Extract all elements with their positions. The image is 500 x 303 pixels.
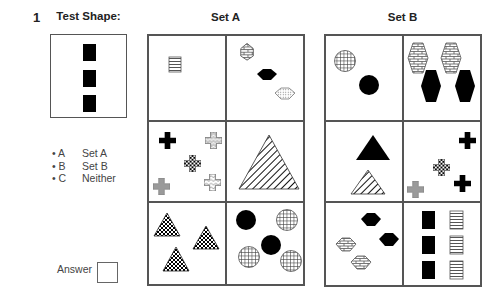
- set-a-heading: Set A: [147, 11, 304, 23]
- set-b-cell-top-right: [403, 35, 481, 121]
- set-a-grid: [147, 34, 305, 286]
- set-a-cell-middle-right: [226, 121, 304, 202]
- option-a[interactable]: • ASet A: [52, 147, 116, 160]
- set-a-cell-bottom-left: [148, 202, 226, 285]
- test-shape-box: [50, 34, 127, 118]
- set-a-cell-top-left: [148, 35, 226, 121]
- set-b-cell-bottom-right: [403, 202, 481, 286]
- set-b-heading: Set B: [324, 11, 481, 23]
- test-shape-figure: [51, 35, 128, 119]
- set-a-cell-bottom-right: [226, 202, 304, 285]
- option-b[interactable]: • BSet B: [52, 160, 116, 173]
- set-b-cell-middle-left: [325, 121, 403, 202]
- question-number: 1: [33, 10, 40, 25]
- test-shape-heading: Test Shape:: [50, 10, 127, 22]
- answer-input-box[interactable]: [97, 262, 118, 283]
- set-a-cell-top-right: [226, 35, 304, 121]
- set-b-cell-middle-right: [403, 121, 481, 202]
- answer-label: Answer: [57, 263, 92, 275]
- set-a-cell-middle-left: [148, 121, 226, 202]
- set-b-cell-bottom-left: [325, 202, 403, 286]
- option-c[interactable]: • CNeither: [52, 172, 116, 185]
- set-b-grid: [324, 34, 482, 287]
- set-b-cell-top-left: [325, 35, 403, 121]
- answer-options: • ASet A • BSet B • CNeither: [52, 147, 116, 185]
